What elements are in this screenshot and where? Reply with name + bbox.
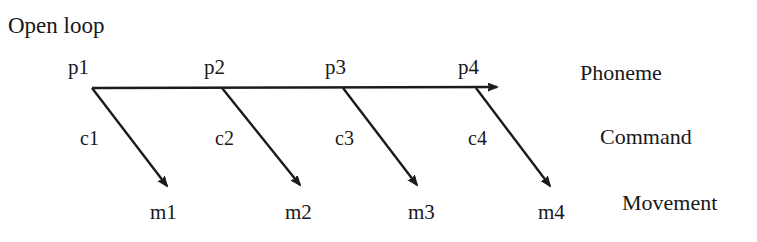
movement-label-m2: m2 bbox=[285, 202, 312, 223]
movement-label-m3: m3 bbox=[408, 202, 435, 223]
command-arrow-c1 bbox=[92, 88, 167, 186]
command-arrow-c3 bbox=[343, 88, 417, 185]
phoneme-axis-arrow bbox=[92, 87, 497, 88]
movement-label-m4: m4 bbox=[538, 202, 565, 223]
command-label-c1: c1 bbox=[80, 128, 99, 148]
tier-label-command: Command bbox=[600, 126, 692, 148]
command-label-c4: c4 bbox=[468, 128, 487, 148]
phoneme-label-p2: p2 bbox=[204, 57, 225, 78]
phoneme-label-p1: p1 bbox=[68, 57, 89, 78]
tier-label-movement: Movement bbox=[622, 192, 717, 214]
diagram-canvas: Open loop p1 p2 p3 p4 c1 c2 c3 c4 m1 m2 … bbox=[0, 0, 757, 242]
phoneme-label-p3: p3 bbox=[325, 57, 346, 78]
command-label-c2: c2 bbox=[215, 128, 234, 148]
command-arrow-c4 bbox=[476, 88, 550, 186]
command-label-c3: c3 bbox=[335, 128, 354, 148]
tier-label-phoneme: Phoneme bbox=[580, 62, 662, 84]
phoneme-label-p4: p4 bbox=[458, 57, 479, 78]
movement-label-m1: m1 bbox=[150, 202, 177, 223]
